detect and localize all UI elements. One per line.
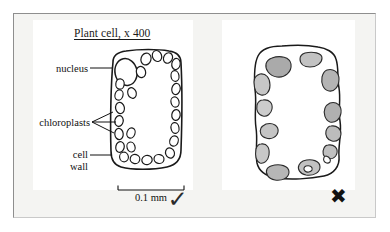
figure-root: Plant cell, x 400 — [0, 0, 390, 232]
cross-icon: ✖ — [330, 186, 347, 206]
